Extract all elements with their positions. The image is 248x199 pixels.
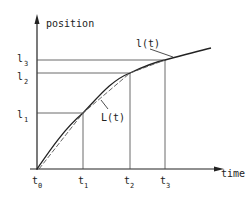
svg-text:2: 2 xyxy=(130,182,134,190)
svg-text:1: 1 xyxy=(84,182,88,190)
svg-text:3: 3 xyxy=(166,182,170,190)
x-axis-label: time xyxy=(221,168,245,179)
x-tick-t2: t 2 xyxy=(124,175,134,190)
y-tick-l1: l 1 xyxy=(17,109,28,124)
y-axis-label: position xyxy=(46,18,94,29)
curve-actual xyxy=(37,48,211,169)
svg-text:l: l xyxy=(17,71,23,82)
svg-text:l: l xyxy=(17,53,23,64)
svg-text:3: 3 xyxy=(24,60,28,68)
label-actual: l(t) xyxy=(136,38,160,49)
x-tick-t1: t 1 xyxy=(78,175,88,190)
y-tick-l3: l 3 xyxy=(17,53,28,68)
leader-actual xyxy=(150,49,173,57)
y-axis-arrow-icon xyxy=(35,14,40,24)
svg-text:0: 0 xyxy=(38,182,42,190)
svg-text:1: 1 xyxy=(24,116,28,124)
label-approx: L(t) xyxy=(101,112,125,123)
leader-approx xyxy=(101,100,108,109)
svg-text:2: 2 xyxy=(24,78,28,86)
svg-text:l: l xyxy=(17,109,23,120)
x-tick-t3: t 3 xyxy=(160,175,170,190)
x-tick-t0: t 0 xyxy=(32,175,42,190)
position-time-diagram: position time l(t) L(t) l 3 l 2 l 1 t 0 … xyxy=(0,0,248,199)
y-tick-l2: l 2 xyxy=(17,71,28,86)
